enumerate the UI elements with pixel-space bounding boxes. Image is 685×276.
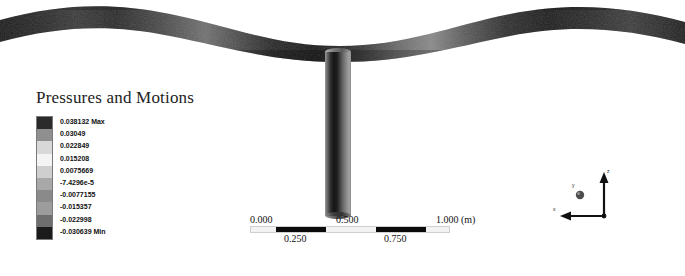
legend-value: -0.030639 Min bbox=[60, 226, 106, 238]
legend-swatch bbox=[37, 215, 52, 227]
legend-swatch bbox=[37, 166, 52, 178]
legend-value: -0.015357 bbox=[60, 201, 106, 213]
simulation-viewport[interactable]: Pressures and Motions 0.038132 Max 0.030… bbox=[0, 0, 685, 276]
triad-label-z: z bbox=[607, 168, 610, 174]
legend-value: 0.038132 Max bbox=[60, 116, 106, 128]
legend-title: Pressures and Motions bbox=[36, 88, 194, 108]
legend-value: 0.022849 bbox=[60, 140, 106, 152]
scale-segment bbox=[376, 227, 426, 232]
scale-tick-0000: 0.000 bbox=[250, 214, 273, 225]
legend-value: -0.0077155 bbox=[60, 189, 106, 201]
legend-value: 0.0075669 bbox=[60, 165, 106, 177]
triad-label-x: x bbox=[553, 206, 556, 212]
legend-swatch bbox=[37, 154, 52, 166]
legend-value: 0.015208 bbox=[60, 153, 106, 165]
scale-bottom-ticks: 0.250 0.750 bbox=[250, 233, 450, 245]
scale-tick-0250: 0.250 bbox=[284, 233, 307, 244]
legend-swatch bbox=[37, 117, 52, 129]
legend-swatch bbox=[37, 178, 52, 190]
scale-bar: 0.000 0.500 1.000 (m) 0.250 0.750 bbox=[250, 214, 450, 245]
legend-value: -7.4296e-5 bbox=[60, 177, 106, 189]
contour-legend[interactable]: Pressures and Motions 0.038132 Max 0.030… bbox=[36, 88, 194, 240]
scale-unit-label: 1.000 (m) bbox=[436, 214, 475, 225]
monopile-cylinder bbox=[325, 48, 351, 216]
legend-swatch bbox=[37, 227, 52, 239]
legend-swatch bbox=[37, 190, 52, 202]
legend-swatch bbox=[37, 202, 52, 214]
scale-tick-0750: 0.750 bbox=[384, 233, 407, 244]
scale-segment bbox=[276, 227, 326, 232]
scale-top-ticks: 0.000 0.500 1.000 (m) bbox=[250, 214, 450, 226]
scale-track bbox=[250, 226, 450, 233]
scale-tick-0500: 0.500 bbox=[336, 214, 359, 225]
cylinder-surface bbox=[325, 52, 351, 216]
legend-colorbar bbox=[36, 116, 53, 240]
legend-swatch bbox=[37, 141, 52, 153]
legend-swatch bbox=[37, 129, 52, 141]
legend-value: 0.03049 bbox=[60, 128, 106, 140]
triad-axes-icon bbox=[548, 168, 626, 230]
coordinate-triad[interactable]: z x y bbox=[548, 168, 626, 230]
legend-value: -0.022998 bbox=[60, 214, 106, 226]
triad-label-y: y bbox=[572, 182, 575, 188]
